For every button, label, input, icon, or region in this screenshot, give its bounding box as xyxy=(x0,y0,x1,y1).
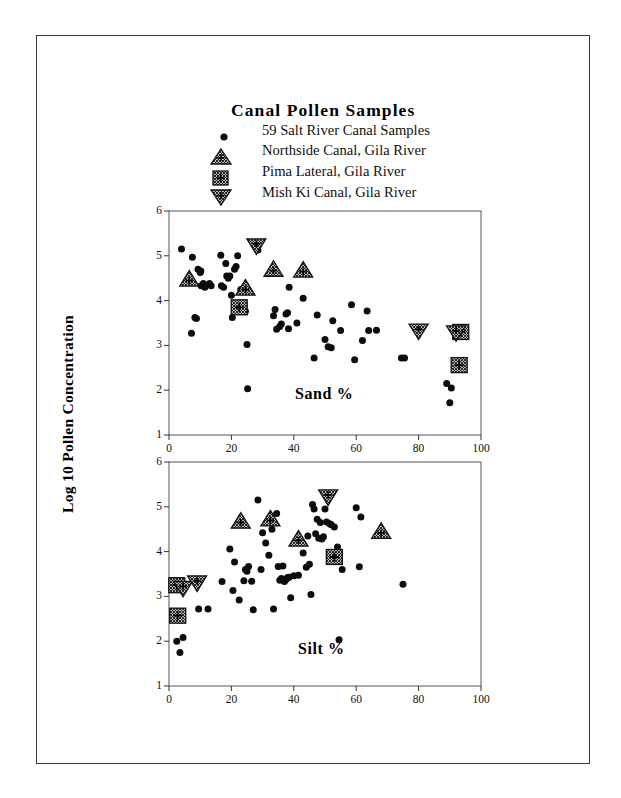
x-tick-label: 80 xyxy=(404,442,434,454)
y-tick-label: 4 xyxy=(144,545,162,557)
data-point xyxy=(220,284,227,291)
y-axis-title: Log 10 Pollen Concentration xyxy=(59,274,77,554)
data-point xyxy=(328,521,335,528)
data-point xyxy=(245,563,252,570)
legend-label-3: Mish Ki Canal, Gila River xyxy=(262,184,416,201)
data-point xyxy=(188,330,195,337)
data-point xyxy=(322,336,329,343)
data-point xyxy=(275,563,282,570)
data-point xyxy=(242,308,249,315)
data-point xyxy=(451,358,467,373)
data-point xyxy=(240,577,247,584)
data-point xyxy=(270,312,277,319)
data-point xyxy=(294,262,313,278)
data-point xyxy=(295,572,302,579)
legend-label-0: 59 Salt River Canal Samples xyxy=(262,122,430,139)
data-point xyxy=(326,520,333,527)
data-point xyxy=(289,531,308,547)
data-point xyxy=(222,260,229,267)
data-point xyxy=(447,326,466,342)
panel-label-silt: Silt % xyxy=(298,640,345,658)
data-point xyxy=(200,280,207,287)
data-point xyxy=(303,564,310,571)
data-point xyxy=(229,587,236,594)
data-point xyxy=(307,591,314,598)
data-point xyxy=(285,325,292,332)
x-tick-label: 80 xyxy=(404,693,434,705)
data-point xyxy=(248,578,255,585)
data-point xyxy=(217,252,224,259)
data-point xyxy=(279,562,286,569)
data-point xyxy=(365,327,372,334)
data-point xyxy=(278,575,285,582)
data-point xyxy=(314,516,321,523)
data-point xyxy=(453,324,469,339)
data-point xyxy=(223,272,230,279)
data-point xyxy=(273,326,280,333)
data-point xyxy=(311,354,318,361)
x-tick-label: 60 xyxy=(341,442,371,454)
data-point xyxy=(225,275,232,282)
data-point xyxy=(357,514,364,521)
y-tick-label: 6 xyxy=(144,455,162,467)
data-point xyxy=(193,315,200,322)
data-point xyxy=(276,323,283,330)
data-point xyxy=(231,513,250,529)
data-point xyxy=(348,301,355,308)
data-point xyxy=(226,545,233,552)
data-point xyxy=(250,606,257,613)
data-point xyxy=(231,300,247,315)
page-title: Canal Pollen Samples xyxy=(231,100,415,121)
data-point xyxy=(312,530,319,537)
data-point xyxy=(306,561,313,568)
data-point xyxy=(293,320,300,327)
data-point xyxy=(173,638,180,645)
y-tick-label: 5 xyxy=(144,500,162,512)
y-tick-label: 4 xyxy=(144,294,162,306)
data-point xyxy=(286,574,293,581)
data-point xyxy=(287,594,294,601)
data-point xyxy=(364,307,371,314)
data-point xyxy=(351,356,358,363)
data-point xyxy=(231,558,238,565)
data-point xyxy=(328,344,335,351)
legend-label-2: Pima Lateral, Gila River xyxy=(262,163,405,180)
data-point xyxy=(206,280,213,287)
data-point xyxy=(276,577,283,584)
x-tick-label: 0 xyxy=(154,442,184,454)
x-tick-label: 100 xyxy=(466,442,496,454)
y-tick-label: 3 xyxy=(144,338,162,350)
data-point xyxy=(244,568,251,575)
data-point xyxy=(309,501,316,508)
data-point xyxy=(283,311,290,318)
x-tick-label: 60 xyxy=(341,693,371,705)
data-point xyxy=(174,581,193,597)
data-point xyxy=(359,337,366,344)
data-point xyxy=(176,649,183,656)
data-point xyxy=(326,549,342,564)
data-point xyxy=(226,272,233,279)
data-point xyxy=(283,576,290,583)
data-point xyxy=(236,596,243,603)
data-point xyxy=(281,578,288,585)
data-point xyxy=(272,306,279,313)
data-point xyxy=(290,572,297,579)
x-tick-label: 20 xyxy=(216,442,246,454)
data-point xyxy=(318,536,325,543)
x-tick-label: 100 xyxy=(466,693,496,705)
data-point xyxy=(244,385,251,392)
data-point xyxy=(278,320,285,327)
y-tick-label: 1 xyxy=(144,679,162,691)
y-tick-label: 2 xyxy=(144,383,162,395)
legend-label-1: Northside Canal, Gila River xyxy=(262,142,426,159)
data-point xyxy=(284,309,291,316)
y-tick-label: 6 xyxy=(144,204,162,216)
data-point xyxy=(254,246,261,253)
y-tick-label: 3 xyxy=(144,589,162,601)
data-point xyxy=(208,282,215,289)
data-point xyxy=(443,380,450,387)
data-point xyxy=(259,529,266,536)
data-point xyxy=(337,327,344,334)
data-point xyxy=(254,497,261,504)
data-point xyxy=(320,533,327,540)
